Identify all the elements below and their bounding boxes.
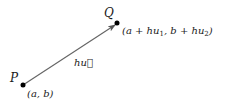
diagram-canvas: P (a, b) Q (a + hu1, b + hu2) hu⃗	[0, 0, 230, 105]
point-p-dot	[21, 83, 26, 88]
q-coord-part-2: , b + hu	[164, 25, 204, 36]
point-q-dot	[115, 21, 120, 26]
point-p-coordinates: (a, b)	[27, 89, 54, 99]
q-coord-part-1: (a + hu	[122, 25, 159, 36]
q-coord-part-3: )	[209, 25, 213, 36]
vector-label: hu⃗	[74, 58, 93, 68]
point-q-coordinates: (a + hu1, b + hu2)	[122, 26, 213, 38]
point-p-label: P	[10, 72, 18, 84]
point-q-label: Q	[104, 7, 114, 19]
vector-arrow	[23, 25, 115, 85]
